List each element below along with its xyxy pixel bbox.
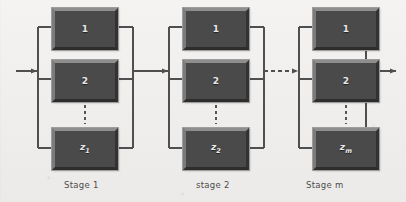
stage-m-block-2-label: 2 <box>343 77 349 86</box>
stage-1-block-z-subscript: 1 <box>85 147 90 155</box>
diagram-canvas: 1 2 z1 1 2 z2 1 2 zm Stage 1 stage 2 Sta… <box>0 0 406 202</box>
stage-1-block-z[interactable]: z1 <box>52 128 118 170</box>
stage-1-vertical-ellipsis-icon <box>84 105 86 124</box>
stage-m-block-1[interactable]: 1 <box>313 8 379 50</box>
stage-2-vertical-ellipsis-icon <box>215 105 217 124</box>
stage-2-block-z-label: z2 <box>211 143 221 154</box>
stage-2-block-z[interactable]: z2 <box>183 128 249 170</box>
stage-m-block-z-subscript: m <box>345 147 352 155</box>
stage-m-block-z[interactable]: zm <box>313 128 379 170</box>
stage-2-block-2-label: 2 <box>213 77 219 86</box>
stage-m-block-2[interactable]: 2 <box>313 60 379 102</box>
stage-2-caption: stage 2 <box>196 180 230 190</box>
stage-2-block-2[interactable]: 2 <box>183 60 249 102</box>
stage-2-block-1[interactable]: 1 <box>183 8 249 50</box>
stage-1-block-2[interactable]: 2 <box>52 60 118 102</box>
stage-1-block-1[interactable]: 1 <box>52 8 118 50</box>
stage-1-block-z-label: z1 <box>80 143 90 154</box>
stage-2-block-z-subscript: 2 <box>216 147 221 155</box>
stage-2-block-1-label: 1 <box>213 25 219 34</box>
stage-1-caption: Stage 1 <box>64 180 99 190</box>
stage-m-caption: Stage m <box>306 180 344 190</box>
stage-m-block-z-label: zm <box>340 143 352 154</box>
stage-m-vertical-ellipsis-icon <box>345 105 347 124</box>
stage-m-block-1-label: 1 <box>343 25 349 34</box>
stage-1-block-1-label: 1 <box>82 25 88 34</box>
stage-1-block-2-label: 2 <box>82 77 88 86</box>
